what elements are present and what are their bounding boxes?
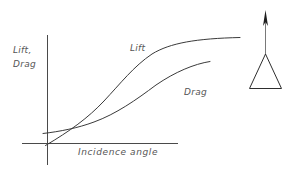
x-axis-label: Incidence angle (78, 146, 158, 160)
y-axis-label-line1: Lift, (13, 44, 36, 58)
y-axis-label-line2: Drag (13, 58, 36, 72)
y-axis-label: Lift, Drag (13, 44, 36, 72)
lift-curve-label: Lift (130, 42, 145, 56)
drag-curve-label: Drag (184, 86, 207, 100)
lift-drag-diagram: Lift, Drag Incidence angle Lift Drag (0, 0, 291, 185)
lift-force-arrow-icon (263, 10, 268, 55)
wing-section-triangle-icon (250, 54, 282, 89)
